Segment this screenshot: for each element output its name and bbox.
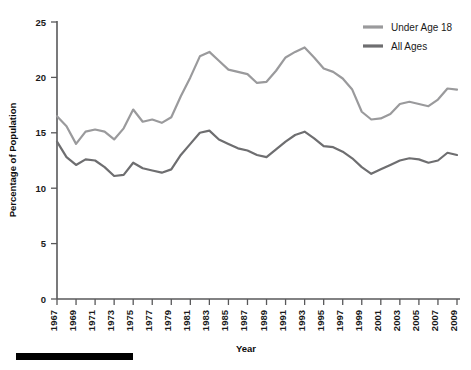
x-tick-label: 1999: [353, 310, 364, 331]
y-tick-label: 0: [41, 294, 46, 305]
x-tick-label: 1985: [219, 309, 230, 331]
x-tick-label: 1991: [277, 309, 288, 331]
x-axis-title: Year: [236, 343, 256, 354]
y-axis-title: Percentage of Population: [7, 103, 18, 218]
x-tick-label: 2001: [372, 309, 383, 331]
x-tick-label: 1975: [124, 309, 135, 331]
x-tick-label: 1971: [86, 309, 97, 331]
chart-legend: Under Age 18All Ages: [363, 22, 453, 52]
x-tick-label: 1995: [315, 309, 326, 331]
x-tick-label: 1997: [334, 310, 345, 331]
x-tick-label: 2009: [448, 310, 459, 331]
line-chart: 0510152025 19671969197119731975197719791…: [0, 0, 471, 370]
series-group: [57, 47, 457, 176]
legend-label-0: Under Age 18: [391, 22, 453, 33]
y-tick-label: 20: [35, 72, 46, 83]
x-tick-label: 1969: [67, 310, 78, 331]
x-tick-label: 2007: [429, 310, 440, 331]
x-tick-label: 1973: [105, 310, 116, 331]
series-line-under-age-18: [57, 47, 457, 143]
y-tick-label: 10: [35, 183, 46, 194]
x-tick-label: 1967: [48, 310, 59, 331]
x-axis: 1967196919711973197519771979198119831985…: [48, 299, 460, 331]
x-tick-label: 2003: [391, 310, 402, 331]
x-tick-label: 1983: [200, 310, 211, 331]
x-tick-label: 1977: [143, 310, 154, 331]
chart-container: 0510152025 19671969197119731975197719791…: [0, 0, 471, 370]
y-tick-label: 15: [35, 127, 46, 138]
footer-rule: [16, 353, 133, 360]
y-tick-group: 0510152025: [35, 17, 57, 305]
x-tick-label: 2005: [410, 309, 421, 331]
x-tick-label: 1987: [238, 310, 249, 331]
y-tick-label: 5: [41, 238, 47, 249]
x-tick-label: 1979: [162, 310, 173, 331]
y-axis: 0510152025: [35, 17, 57, 305]
x-tick-label: 1981: [181, 309, 192, 331]
x-tick-group: 1967196919711973197519771979198119831985…: [48, 299, 459, 331]
legend-label-1: All Ages: [391, 41, 427, 52]
x-tick-label: 1993: [296, 310, 307, 331]
x-tick-label: 1989: [258, 310, 269, 331]
y-tick-label: 25: [35, 17, 46, 28]
